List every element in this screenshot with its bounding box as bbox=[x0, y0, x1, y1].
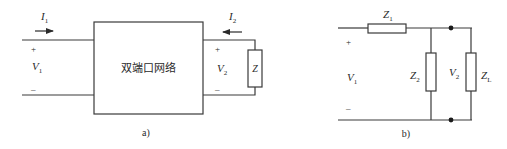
caption-a: a) bbox=[142, 127, 150, 139]
zl-label: ZL bbox=[481, 69, 491, 84]
output-minus: – bbox=[214, 84, 220, 94]
input-minus: – bbox=[30, 84, 36, 94]
output-node-top-dot bbox=[449, 26, 454, 31]
voltage-v2-label: V2 bbox=[217, 62, 228, 77]
output-node-bottom-dot bbox=[449, 118, 454, 123]
v1-label-b: V1 bbox=[347, 71, 358, 86]
current-i2-label: I2 bbox=[228, 10, 237, 25]
output-top-wire bbox=[203, 40, 255, 50]
current-i1-label: I1 bbox=[40, 10, 49, 25]
network-label: 双端口网络 bbox=[121, 61, 176, 75]
series-impedance-z1 bbox=[368, 24, 406, 33]
voltage-v1-label: V1 bbox=[32, 60, 43, 75]
two-port-network-diagrams: 双端口网络 I1 + V1 – Z I2 + V2 – a) Z1 bbox=[0, 0, 507, 149]
input-plus: + bbox=[31, 44, 36, 54]
input-plus-b: + bbox=[346, 37, 351, 47]
input-minus-b: – bbox=[345, 103, 351, 113]
output-plus: + bbox=[215, 44, 220, 54]
caption-b: b) bbox=[402, 128, 410, 140]
z2-label: Z2 bbox=[410, 69, 420, 84]
load-impedance-zl bbox=[466, 53, 476, 91]
v2-label: V2 bbox=[449, 66, 460, 81]
z1-label: Z1 bbox=[383, 8, 393, 23]
shunt-impedance-z2 bbox=[426, 53, 436, 91]
figure-b: Z1 Z2 ZL V2 + V1 – b) bbox=[338, 8, 491, 140]
load-z-label: Z bbox=[252, 63, 258, 74]
output-bottom-wire bbox=[203, 87, 255, 95]
figure-a: 双端口网络 I1 + V1 – Z I2 + V2 – a) bbox=[22, 10, 262, 139]
